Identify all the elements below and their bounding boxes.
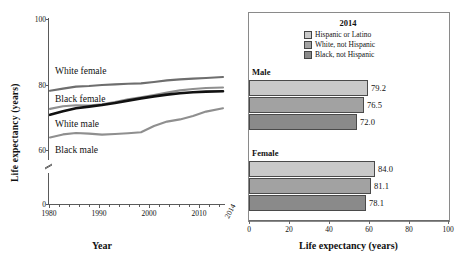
x-tick-mark-2000 <box>149 204 150 208</box>
bar-chart-panel: 2014 Hispanic or Latino White, not Hispa… <box>238 0 466 265</box>
legend-swatch-icon <box>304 41 312 49</box>
x-tick-mark-minor <box>179 204 180 207</box>
bar-male-hispanic[interactable] <box>249 80 368 96</box>
bar-value-female-white: 81.1 <box>374 181 389 191</box>
bar-chart-title: 2014 <box>248 18 448 28</box>
legend-label: Hispanic or Latino <box>315 30 371 40</box>
x-tick-mark-minor <box>129 204 130 207</box>
bar-x-tick-label-40: 40 <box>325 225 333 234</box>
x-tick-label-2000: 2000 <box>142 209 157 218</box>
series-label-black-male: Black male <box>55 145 98 155</box>
y-tick-label-100: 100 <box>35 15 46 24</box>
bar-group-label-male: Male <box>252 67 270 77</box>
x-tick-mark-minor <box>139 204 140 207</box>
x-tick-mark-1980 <box>49 204 50 208</box>
x-tick-mark-1990 <box>99 204 100 208</box>
x-tick-label-2010: 2010 <box>192 209 207 218</box>
x-tick-label-1980: 1980 <box>42 209 57 218</box>
bar-value-female-black: 78.1 <box>369 198 384 208</box>
x-tick-mark-minor <box>79 204 80 207</box>
legend-swatch-icon <box>304 51 312 59</box>
bar-chart-legend: Hispanic or Latino White, not Hispanic B… <box>304 30 375 60</box>
bar-group-label-female: Female <box>252 148 278 158</box>
y-tick-label-80: 80 <box>39 81 47 90</box>
legend-swatch-icon <box>304 31 312 39</box>
line-chart-y-axis-label: Life expectancy (years) <box>10 42 20 182</box>
bar-x-tick-mark-100 <box>448 220 449 224</box>
bar-x-tick-label-60: 60 <box>365 225 373 234</box>
legend-item-hispanic: Hispanic or Latino <box>304 30 375 40</box>
legend-label: Black, not Hispanic <box>315 50 374 60</box>
x-tick-mark-minor <box>189 204 190 207</box>
x-tick-mark-minor <box>169 204 170 207</box>
bar-x-tick-mark-40 <box>329 220 330 224</box>
bar-female-black[interactable] <box>249 195 366 211</box>
x-tick-mark-minor <box>69 204 70 207</box>
legend-label: White, not Hispanic <box>315 40 375 50</box>
line-chart-x-axis-label: Year <box>92 240 112 251</box>
x-tick-label-1990: 1990 <box>92 209 107 218</box>
bar-chart-x-axis-label: Life expectancy (years) <box>249 240 448 251</box>
legend-item-black: Black, not Hispanic <box>304 50 375 60</box>
x-tick-mark-minor <box>219 204 220 207</box>
y-axis-break-icon <box>44 160 53 173</box>
bar-x-tick-mark-0 <box>249 220 250 224</box>
bar-value-female-hispanic: 84.0 <box>378 164 393 174</box>
x-tick-mark-minor <box>159 204 160 207</box>
bar-male-black[interactable] <box>249 114 357 130</box>
bar-x-tick-label-20: 20 <box>285 225 293 234</box>
x-tick-mark-minor <box>109 204 110 207</box>
bar-x-tick-mark-80 <box>409 220 410 224</box>
y-tick-label-60: 60 <box>39 146 47 155</box>
x-tick-mark-minor <box>209 204 210 207</box>
figure-root: Life expectancy (years) 100 80 60 0 Whit… <box>0 0 466 265</box>
bar-male-white[interactable] <box>249 97 364 113</box>
bar-x-tick-mark-60 <box>369 220 370 224</box>
line-chart-panel: Life expectancy (years) 100 80 60 0 Whit… <box>0 0 236 265</box>
legend-item-white: White, not Hispanic <box>304 40 375 50</box>
bar-female-hispanic[interactable] <box>249 161 375 177</box>
bar-chart-x-axis <box>249 220 448 221</box>
x-tick-mark-minor <box>89 204 90 207</box>
series-label-black-female: Black female <box>55 94 105 104</box>
bar-female-white[interactable] <box>249 178 371 194</box>
bar-x-tick-label-80: 80 <box>405 225 413 234</box>
line-chart-plot-area: 100 80 60 0 White female Black female Wh… <box>48 18 225 204</box>
series-label-white-male: White male <box>55 119 99 129</box>
line-series-group <box>49 18 225 204</box>
series-label-white-female: White female <box>55 66 106 76</box>
x-tick-mark-minor <box>119 204 120 207</box>
bar-value-male-white: 76.5 <box>367 100 382 110</box>
bar-x-tick-label-100: 100 <box>442 225 453 234</box>
bar-value-male-black: 72.0 <box>360 117 375 127</box>
x-tick-mark-minor <box>59 204 60 207</box>
bar-x-tick-mark-20 <box>289 220 290 224</box>
x-tick-mark-2010 <box>199 204 200 208</box>
bar-value-male-hispanic: 79.2 <box>371 83 386 93</box>
bar-x-tick-label-0: 0 <box>247 225 251 234</box>
